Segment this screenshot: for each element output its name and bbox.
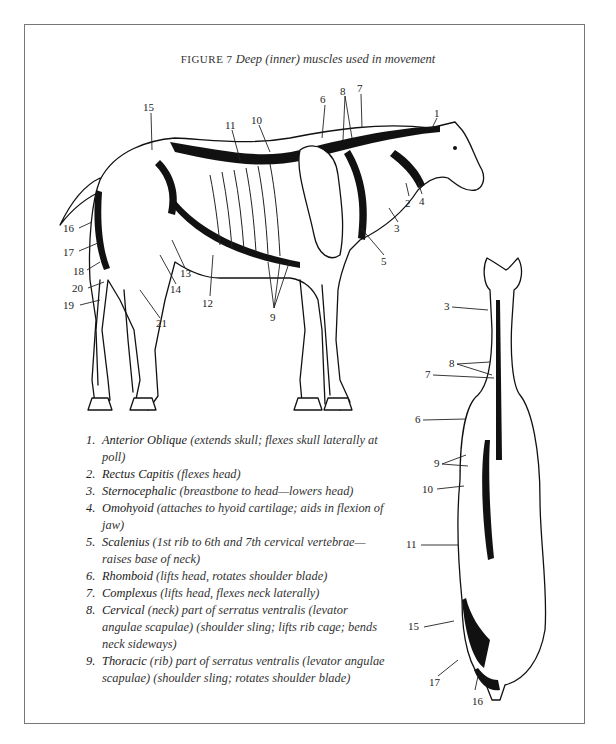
label-16: 16: [63, 223, 74, 234]
muscle-legend-list: 1. Anterior Oblique (extends skull; flex…: [86, 432, 386, 687]
legend-item: 6. Rhomboid (lifts head, rotates shoulde…: [86, 568, 386, 585]
label-4: 4: [419, 196, 425, 207]
legend-item: 4. Omohyoid (attaches to hyoid cartilage…: [86, 500, 386, 534]
label-15: 15: [143, 102, 154, 113]
muscle-name: Omohyoid: [102, 501, 154, 515]
label-14: 14: [170, 284, 181, 295]
muscle-description: (lifts head, rotates shoulder blade): [156, 569, 327, 583]
rear-label-15: 15: [408, 621, 419, 632]
rear-label-10: 10: [422, 484, 433, 495]
legend-item: 3. Sternocephalic (breastbone to head—lo…: [86, 483, 386, 500]
muscle-name: Sternocephalic: [102, 484, 176, 498]
muscle-name: Rhomboid: [102, 569, 153, 583]
legend-number: 2.: [86, 466, 95, 483]
label-19: 19: [63, 300, 74, 311]
legend-number: 6.: [86, 568, 95, 585]
legend-item: 5. Scalenius (1st rib to 6th and 7th cer…: [86, 534, 386, 568]
label-1: 1: [434, 108, 440, 119]
legend-number: 9.: [86, 653, 95, 670]
label-18: 18: [73, 266, 84, 277]
muscle-name: Rectus Capitis: [102, 467, 174, 481]
label-5: 5: [381, 256, 387, 267]
rear-label-7: 7: [425, 369, 431, 380]
label-3: 3: [394, 223, 400, 234]
muscle-name: Complexus: [102, 586, 157, 600]
label-9: 9: [270, 312, 276, 323]
label-8: 8: [340, 86, 346, 97]
horse-side-view: [60, 122, 484, 410]
label-20: 20: [72, 283, 83, 294]
label-7: 7: [357, 83, 363, 94]
legend-number: 3.: [86, 483, 95, 500]
muscle-description: (breastbone to head—lowers head): [179, 484, 353, 498]
rear-label-11: 11: [406, 539, 417, 550]
legend-number: 5.: [86, 534, 95, 551]
muscle-name: Scalenius: [102, 535, 150, 549]
legend-number: 1.: [86, 432, 95, 449]
rear-label-9: 9: [434, 458, 440, 469]
legend-item: 8. Cervical (neck) part of serratus vent…: [86, 602, 386, 653]
label-17: 17: [63, 247, 74, 258]
legend-item: 1. Anterior Oblique (extends skull; flex…: [86, 432, 386, 466]
legend-item: 7. Complexus (lifts head, flexes neck la…: [86, 585, 386, 602]
label-11: 11: [225, 120, 236, 131]
muscle-name: Anterior Oblique: [102, 433, 187, 447]
label-21: 21: [156, 318, 167, 329]
rear-label-8: 8: [449, 358, 455, 369]
label-13: 13: [180, 268, 191, 279]
label-2: 2: [405, 198, 411, 209]
muscle-description: (lifts head, flexes neck laterally): [160, 586, 319, 600]
legend-number: 4.: [86, 500, 95, 517]
rear-label-6: 6: [415, 414, 421, 425]
muscle-name: Thoracic: [102, 654, 147, 668]
muscle-name: Cervical: [102, 603, 145, 617]
rear-label-3: 3: [444, 301, 450, 312]
legend-number: 7.: [86, 585, 95, 602]
horse-eye: [453, 146, 457, 150]
legend-number: 8.: [86, 602, 95, 619]
label-12: 12: [202, 298, 213, 309]
legend-item: 9. Thoracic (rib) part of serratus ventr…: [86, 653, 386, 687]
muscle-description: (flexes head): [177, 467, 241, 481]
label-6: 6: [320, 94, 326, 105]
rear-label-17: 17: [429, 677, 440, 688]
label-10: 10: [251, 115, 262, 126]
rear-label-16: 16: [472, 696, 483, 707]
legend-item: 2. Rectus Capitis (flexes head): [86, 466, 386, 483]
